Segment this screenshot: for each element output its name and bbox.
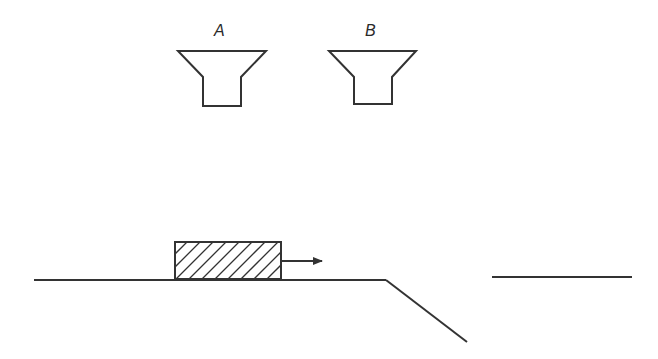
- funnel-b-icon: [329, 51, 416, 104]
- diagram-canvas: A B: [0, 0, 658, 359]
- label-a: A: [213, 22, 225, 39]
- diagram-svg: A B: [0, 0, 658, 359]
- label-b: B: [365, 22, 376, 39]
- sliding-block: [175, 242, 281, 279]
- slope-line: [386, 280, 467, 342]
- funnel-a-icon: [178, 51, 266, 106]
